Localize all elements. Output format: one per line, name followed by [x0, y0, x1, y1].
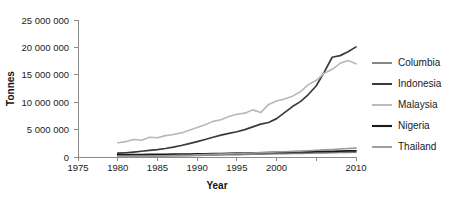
- legend-label-nigeria: Nigeria: [398, 120, 430, 131]
- x-tick-label: 1980: [107, 162, 128, 173]
- x-axis-tick-labels: 1975198019851990199520002010: [67, 162, 366, 173]
- y-axis-tick-labels: 05 000 00010 000 00015 000 00020 000 000…: [21, 15, 69, 163]
- legend-label-malaysia: Malaysia: [398, 99, 438, 110]
- x-tick-label: 1985: [147, 162, 168, 173]
- y-tick-label: 20 000 000: [21, 42, 69, 53]
- legend-label-indonesia: Indonesia: [398, 78, 442, 89]
- y-tick-label: 10 000 000: [21, 97, 69, 108]
- chart-legend: ColumbiaIndonesiaMalaysiaNigeriaThailand: [372, 57, 442, 152]
- series-line-malaysia: [118, 61, 356, 143]
- legend-label-thailand: Thailand: [398, 141, 436, 152]
- x-axis-tick-marks: [78, 157, 356, 161]
- data-series-group: [118, 47, 356, 157]
- line-chart: 05 000 00010 000 00015 000 00020 000 000…: [0, 0, 468, 198]
- y-tick-label: 25 000 000: [21, 15, 69, 26]
- chart-figure: 05 000 00010 000 00015 000 00020 000 000…: [0, 0, 468, 198]
- y-tick-label: 5 000 000: [27, 124, 69, 135]
- x-tick-label: 1990: [187, 162, 208, 173]
- y-tick-label: 0: [64, 152, 69, 163]
- x-axis-title: Year: [206, 180, 227, 191]
- x-tick-label: 2000: [266, 162, 287, 173]
- y-axis-tick-marks: [74, 20, 78, 157]
- x-tick-label: 1995: [226, 162, 247, 173]
- x-tick-label: 1975: [67, 162, 88, 173]
- x-tick-label: 2010: [345, 162, 366, 173]
- legend-label-columbia: Columbia: [398, 57, 441, 68]
- y-tick-label: 15 000 000: [21, 69, 69, 80]
- y-axis-title: Tonnes: [5, 71, 16, 106]
